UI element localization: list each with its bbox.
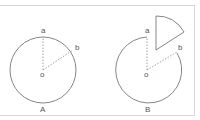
label-b: b (178, 43, 183, 52)
circle-diagram: a b o A a b o B (0, 0, 200, 120)
figure-b: a b o B (116, 16, 184, 114)
label-o: o (144, 70, 149, 79)
label-b: b (75, 43, 80, 52)
figure-label-b: B (145, 105, 150, 114)
radius-ob (147, 52, 177, 70)
figure-label-a: A (40, 105, 46, 114)
label-a: a (145, 26, 150, 35)
label-a: a (41, 26, 46, 35)
label-o: o (40, 70, 45, 79)
radius-ob (43, 50, 73, 70)
circle-b-arc (116, 37, 182, 103)
figure-a: a b o A (10, 26, 80, 114)
